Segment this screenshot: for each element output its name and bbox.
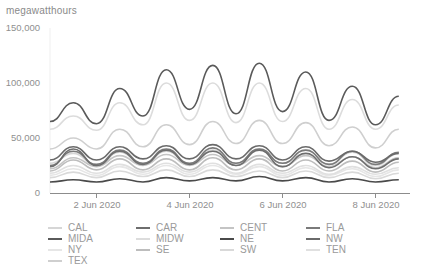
legend-swatch (306, 238, 320, 240)
legend-item-car[interactable]: CAR (136, 222, 177, 233)
legend-item-mida[interactable]: MIDA (48, 233, 93, 244)
legend-label: MIDA (68, 233, 93, 244)
legend-swatch (48, 260, 62, 262)
legend-swatch (306, 249, 320, 251)
legend-label: CENT (240, 222, 267, 233)
legend-item-cent[interactable]: CENT (220, 222, 267, 233)
legend-swatch (136, 227, 150, 229)
legend-label: TEN (326, 244, 346, 255)
series-line-tex (50, 120, 399, 149)
legend-swatch (136, 249, 150, 251)
legend-swatch (220, 238, 234, 240)
x-tick-label: 8 Jun 2020 (352, 199, 399, 210)
legend-label: SE (156, 244, 169, 255)
legend-item-sw[interactable]: SW (220, 244, 256, 255)
legend-label: NY (68, 244, 82, 255)
legend-item-ten[interactable]: TEN (306, 244, 346, 255)
legend-swatch (220, 249, 234, 251)
legend-item-midw[interactable]: MIDW (136, 233, 184, 244)
x-tick-label: 4 Jun 2020 (166, 199, 213, 210)
legend-label: CAL (68, 222, 87, 233)
legend-label: TEX (68, 255, 87, 266)
series-line-mida (50, 63, 399, 125)
legend-swatch (220, 227, 234, 229)
x-tick-label: 6 Jun 2020 (259, 199, 306, 210)
legend-item-fla[interactable]: FLA (306, 222, 344, 233)
legend-label: NW (326, 233, 343, 244)
legend-item-se[interactable]: SE (136, 244, 169, 255)
legend-swatch (48, 238, 62, 240)
legend-item-nw[interactable]: NW (306, 233, 343, 244)
legend-label: SW (240, 244, 256, 255)
legend-label: MIDW (156, 233, 184, 244)
legend-item-ny[interactable]: NY (48, 244, 82, 255)
legend-item-tex[interactable]: TEX (48, 255, 87, 266)
legend-swatch (48, 249, 62, 251)
series-lines (50, 63, 399, 182)
legend-item-cal[interactable]: CAL (48, 222, 87, 233)
legend-item-ne[interactable]: NE (220, 233, 254, 244)
x-tick-label: 2 Jun 2020 (73, 199, 120, 210)
legend-swatch (48, 227, 62, 229)
legend-label: FLA (326, 222, 344, 233)
legend-swatch (306, 227, 320, 229)
legend-swatch (136, 238, 150, 240)
legend-label: NE (240, 233, 254, 244)
legend-label: CAR (156, 222, 177, 233)
